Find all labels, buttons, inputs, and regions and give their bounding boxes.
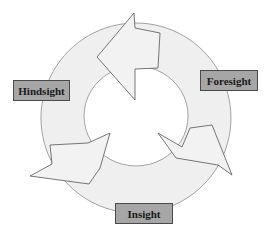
stage-label-text: Foresight	[207, 75, 251, 87]
stage-label-text: Insight	[127, 208, 160, 220]
stage-label-insight: Insight	[115, 203, 173, 224]
cycle-diagram	[0, 0, 270, 236]
stage-label-foresight: Foresight	[200, 70, 258, 91]
stage-label-text: Hindsight	[18, 85, 64, 97]
stage-label-hindsight: Hindsight	[13, 80, 70, 101]
